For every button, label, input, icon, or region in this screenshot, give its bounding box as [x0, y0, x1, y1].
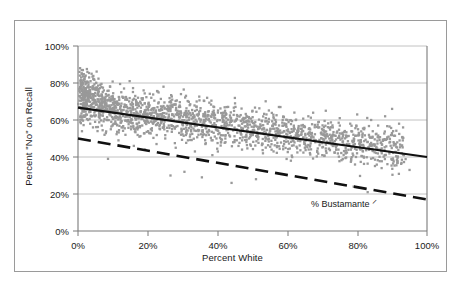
scatter-point	[115, 123, 117, 125]
scatter-point	[339, 124, 341, 126]
scatter-point	[185, 142, 187, 144]
scatter-point	[133, 98, 135, 100]
scatter-point	[208, 134, 210, 136]
scatter-point	[270, 143, 272, 145]
scatter-point	[187, 139, 189, 141]
scatter-point	[296, 129, 298, 131]
scatter-point	[137, 125, 139, 127]
scatter-point	[278, 145, 280, 147]
scatter-point	[129, 80, 131, 82]
x-tick-label-60: 60%	[266, 240, 310, 251]
scatter-point	[242, 136, 244, 138]
scatter-point	[156, 90, 158, 92]
scatter-point	[262, 152, 264, 154]
scatter-point	[124, 119, 126, 121]
scatter-point	[150, 109, 152, 111]
scatter-point	[220, 144, 222, 146]
scatter-point	[265, 146, 267, 148]
scatter-point	[205, 127, 207, 129]
scatter-point	[110, 95, 112, 97]
scatter-point	[95, 70, 97, 72]
scatter-point	[240, 107, 242, 109]
scatter-point	[189, 135, 191, 137]
scatter-point	[334, 135, 336, 137]
scatter-point	[159, 109, 161, 111]
scatter-point	[233, 110, 235, 112]
scatter-point	[135, 101, 137, 103]
scatter-point	[278, 106, 280, 108]
scatter-point	[81, 115, 83, 117]
scatter-point	[360, 130, 362, 132]
scatter-point	[184, 112, 186, 114]
scatter-point	[267, 144, 269, 146]
scatter-point	[304, 147, 306, 149]
scatter-point	[179, 101, 181, 103]
scatter-point	[90, 115, 92, 117]
x-axis-title: Percent White	[0, 252, 465, 263]
scatter-point	[295, 146, 297, 148]
scatter-point	[163, 123, 165, 125]
scatter-point	[132, 103, 134, 105]
scatter-point	[183, 135, 185, 137]
scatter-point	[128, 100, 130, 102]
scatter-point	[106, 99, 108, 101]
scatter-point	[353, 140, 355, 142]
scatter-point	[124, 116, 126, 118]
scatter-point	[381, 152, 383, 154]
scatter-point	[398, 139, 400, 141]
scatter-point	[101, 124, 103, 126]
scatter-point	[290, 123, 292, 125]
scatter-point	[216, 142, 218, 144]
scatter-point	[338, 160, 340, 162]
scatter-point	[281, 121, 283, 123]
scatter-point	[104, 98, 106, 100]
scatter-point	[93, 106, 95, 108]
scatter-point	[289, 119, 291, 121]
scatter-point	[131, 122, 133, 124]
scatter-point	[134, 95, 136, 97]
scatter-point	[148, 102, 150, 104]
scatter-point	[336, 131, 338, 133]
scatter-point	[386, 125, 388, 127]
scatter-point	[224, 137, 226, 139]
scatter-point	[312, 112, 314, 114]
scatter-point	[164, 137, 166, 139]
scatter-point	[268, 109, 270, 111]
scatter-point	[258, 118, 260, 120]
scatter-point	[338, 122, 340, 124]
scatter-point	[392, 162, 394, 164]
scatter-point	[274, 119, 276, 121]
scatter-point	[107, 94, 109, 96]
scatter-point	[168, 124, 170, 126]
x-tick-label-40: 40%	[196, 240, 240, 251]
scatter-point	[94, 115, 96, 117]
scatter-point	[220, 141, 222, 143]
scatter-point	[254, 106, 256, 108]
scatter-point	[163, 128, 165, 130]
scatter-point	[139, 135, 141, 137]
scatter-point	[236, 139, 238, 141]
scatter-point	[155, 109, 157, 111]
scatter-point	[309, 128, 311, 130]
scatter-point	[196, 136, 198, 138]
scatter-point	[361, 136, 363, 138]
scatter-point	[168, 127, 170, 129]
scatter-point	[86, 81, 88, 83]
scatter-point	[150, 128, 152, 130]
scatter-point	[391, 168, 393, 170]
scatter-point	[350, 161, 352, 163]
scatter-point	[192, 127, 194, 129]
scatter-point	[172, 125, 174, 127]
scatter-point	[112, 123, 114, 125]
scatter-point	[398, 173, 400, 175]
scatter-point	[100, 86, 102, 88]
scatter-point	[104, 103, 106, 105]
scatter-point	[108, 96, 110, 98]
scatter-point	[241, 123, 243, 125]
scatter-point	[171, 128, 173, 130]
scatter-point	[106, 116, 108, 118]
scatter-point	[254, 144, 256, 146]
scatter-point	[317, 121, 319, 123]
scatter-point	[194, 150, 196, 152]
scatter-point	[385, 145, 387, 147]
